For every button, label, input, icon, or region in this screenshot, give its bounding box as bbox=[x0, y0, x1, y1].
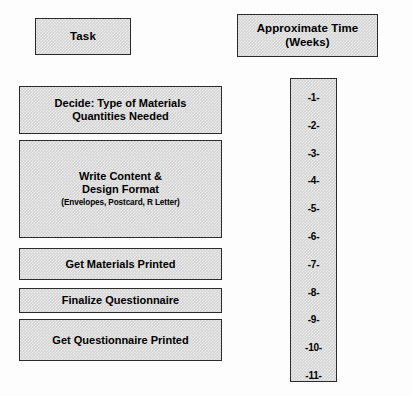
task-box-2-line2: Design Format bbox=[82, 183, 159, 196]
column-header-task: Task bbox=[35, 18, 131, 55]
week-marker-8: -8- bbox=[291, 287, 336, 299]
task-box-3-line1: Get Materials Printed bbox=[65, 258, 175, 271]
task-box-2: Write Content & Design Format (Envelopes… bbox=[19, 140, 222, 238]
week-marker-9: -9- bbox=[291, 314, 336, 326]
column-header-task-label: Task bbox=[70, 30, 96, 44]
week-marker-6: -6- bbox=[291, 231, 336, 243]
task-box-2-line1: Write Content & bbox=[79, 170, 162, 183]
column-header-time-line1: Approximate Time bbox=[257, 22, 359, 36]
week-marker-2: -2- bbox=[291, 120, 336, 132]
task-box-1: Decide: Type of Materials Quantities Nee… bbox=[19, 86, 222, 134]
week-marker-10: -10- bbox=[291, 342, 336, 354]
task-box-5: Get Questionnaire Printed bbox=[19, 319, 222, 361]
week-marker-5: -5- bbox=[291, 203, 336, 215]
week-marker-3: -3- bbox=[291, 148, 336, 160]
week-marker-7: -7- bbox=[291, 259, 336, 271]
task-box-4-line1: Finalize Questionnaire bbox=[62, 294, 179, 307]
week-marker-4: -4- bbox=[291, 175, 336, 187]
task-box-3: Get Materials Printed bbox=[19, 248, 222, 280]
time-ruler: -1- -2- -3- -4- -5- -6- -7- -8- -9- -10-… bbox=[290, 78, 337, 382]
task-box-1-line1: Decide: Type of Materials bbox=[55, 97, 187, 110]
week-marker-1: -1- bbox=[291, 92, 336, 104]
schedule-chart: Task Approximate Time (Weeks) Decide: Ty… bbox=[0, 0, 413, 396]
task-box-2-subtitle: (Envelopes, Postcard, R Letter) bbox=[61, 198, 179, 208]
week-marker-11: -11- bbox=[291, 370, 336, 382]
column-header-time-line2: (Weeks) bbox=[285, 36, 330, 50]
column-header-time: Approximate Time (Weeks) bbox=[237, 14, 378, 57]
task-box-5-line1: Get Questionnaire Printed bbox=[52, 334, 188, 347]
task-box-1-line2: Quantities Needed bbox=[72, 110, 169, 123]
task-box-4: Finalize Questionnaire bbox=[19, 288, 222, 313]
